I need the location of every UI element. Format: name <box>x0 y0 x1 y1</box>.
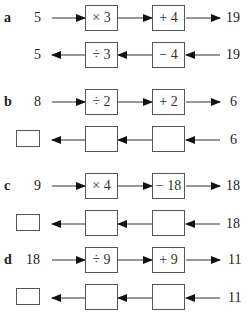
inverse-input: 18 <box>226 217 240 231</box>
problem-label: d <box>4 253 12 267</box>
forward-op2-box: − 18 <box>152 173 185 199</box>
inverse-op1-box[interactable] <box>152 126 185 152</box>
inverse-op2-box[interactable] <box>85 284 118 310</box>
forward-input: 8 <box>34 95 41 109</box>
forward-op1-box: × 3 <box>85 5 118 31</box>
forward-op1-box: ÷ 2 <box>85 89 118 115</box>
inverse-op2-box[interactable] <box>85 126 118 152</box>
inverse-input: 6 <box>230 133 237 147</box>
inverse-output: 5 <box>34 48 41 62</box>
problem-label: a <box>4 11 11 25</box>
inverse-op2-box[interactable] <box>85 210 118 236</box>
inverse-op1-box[interactable] <box>152 210 185 236</box>
inverse-input: 19 <box>226 48 240 62</box>
forward-input: 18 <box>26 253 40 267</box>
forward-output: 19 <box>226 11 240 25</box>
forward-op2-box: + 9 <box>152 247 185 273</box>
forward-input: 5 <box>34 11 41 25</box>
forward-output: 18 <box>226 179 240 193</box>
inverse-op2-box: ÷ 3 <box>85 42 118 68</box>
forward-op1-box: × 4 <box>85 173 118 199</box>
answer-box[interactable] <box>16 130 40 147</box>
problem-label: b <box>4 95 12 109</box>
answer-box[interactable] <box>16 214 40 231</box>
forward-output: 6 <box>230 95 237 109</box>
forward-input: 9 <box>34 179 41 193</box>
forward-op2-box: + 4 <box>152 5 185 31</box>
answer-box[interactable] <box>16 288 40 305</box>
forward-output: 11 <box>228 253 241 267</box>
inverse-input: 11 <box>228 291 241 305</box>
forward-op1-box: ÷ 9 <box>85 247 118 273</box>
forward-op2-box: + 2 <box>152 89 185 115</box>
inverse-op1-box: − 4 <box>152 42 185 68</box>
problem-label: c <box>4 179 10 193</box>
inverse-op1-box[interactable] <box>152 284 185 310</box>
